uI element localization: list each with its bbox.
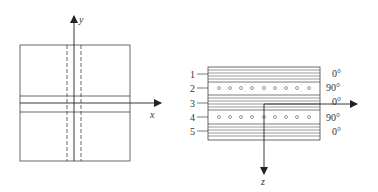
layer-angle: 90° — [326, 82, 340, 93]
layer-number: 4 — [190, 112, 195, 123]
plate-top-view: y x — [20, 14, 161, 161]
layer-angle: 90° — [326, 112, 340, 123]
layer-angle: 0° — [332, 68, 341, 79]
layer-number: 3 — [190, 98, 195, 109]
diagram-canvas: y x — [0, 0, 378, 192]
layer-number: 1 — [190, 69, 195, 80]
layer-2-fibers — [218, 87, 311, 90]
layer-1-fibers — [208, 70, 320, 79]
layer-angle: 0° — [332, 126, 341, 137]
layer-angle: 0° — [332, 96, 341, 107]
layer-leaders — [197, 74, 208, 131]
laminate-cross-section: z 1 2 3 4 5 0° 90° 0° 90° 0° — [190, 67, 357, 187]
layer-number: 2 — [190, 83, 195, 94]
layer-number: 5 — [190, 126, 195, 137]
z-axis-label: z — [260, 176, 265, 187]
x-axis-label: x — [149, 109, 155, 120]
y-axis-label: y — [78, 14, 84, 25]
